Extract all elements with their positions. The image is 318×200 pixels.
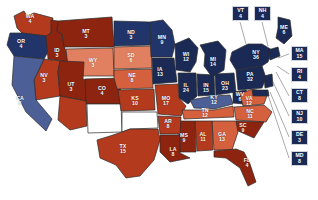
state-shape-WA[interactable]	[14, 11, 53, 36]
state-shape-IA[interactable]	[152, 58, 177, 84]
state-shape-NM[interactable]	[87, 104, 122, 133]
state-shape-MT[interactable]	[57, 17, 114, 47]
state-electoral-votes: 15	[297, 54, 303, 60]
box-state-MA[interactable]: MA15	[291, 46, 308, 61]
state-shape-MN[interactable]	[150, 20, 175, 57]
state-shape-KS[interactable]	[118, 89, 155, 111]
state-shape-NC[interactable]	[234, 105, 272, 122]
state-shape-OR[interactable]	[7, 33, 48, 59]
state-shape-md-sliver	[252, 90, 269, 96]
state-shape-ND[interactable]	[114, 21, 151, 46]
state-shape-GA[interactable]	[212, 121, 238, 150]
state-electoral-votes: 4	[239, 14, 242, 20]
state-shape-SC[interactable]	[236, 121, 264, 138]
box-state-MD[interactable]: MD8	[291, 151, 308, 166]
state-shape-SD[interactable]	[114, 46, 152, 69]
box-state-NH[interactable]: NH4	[254, 6, 271, 21]
state-shapes	[7, 11, 292, 186]
state-shape-NE[interactable]	[114, 69, 153, 89]
box-state-VT[interactable]: VT4	[232, 6, 249, 21]
state-shape-AL[interactable]	[195, 121, 213, 151]
state-shape-TX[interactable]	[97, 129, 160, 178]
state-electoral-votes: 8	[298, 159, 301, 165]
state-shape-AZ[interactable]	[58, 96, 87, 130]
us-map-svg	[0, 0, 318, 200]
state-shape-NY[interactable]	[230, 44, 272, 70]
state-shape-MI[interactable]	[200, 41, 226, 77]
state-shape-FL[interactable]	[214, 149, 256, 186]
state-shape-nj-sliver	[264, 74, 273, 88]
state-shape-ME[interactable]	[276, 17, 292, 44]
state-electoral-votes: 4	[298, 75, 301, 81]
box-state-RI[interactable]: RI4	[291, 67, 308, 82]
state-shape-IN[interactable]	[197, 74, 215, 96]
state-electoral-votes: 4	[261, 14, 264, 20]
state-shape-UT[interactable]	[58, 61, 87, 101]
state-shape-WI[interactable]	[175, 38, 198, 72]
box-state-NJ[interactable]: NJ10	[291, 109, 308, 124]
state-electoral-votes: 10	[297, 117, 303, 123]
electoral-map: WA4OR4ID3MT3ND3SD6NE8WY3NV3UT3CO4CA8KS10…	[0, 0, 318, 200]
box-state-DE[interactable]: DE3	[291, 130, 308, 145]
state-electoral-votes: 8	[298, 96, 301, 102]
state-electoral-votes: 3	[298, 138, 301, 144]
state-shape-AR[interactable]	[158, 116, 181, 134]
box-state-CT[interactable]: CT8	[291, 88, 308, 103]
state-shape-KY[interactable]	[190, 95, 233, 109]
